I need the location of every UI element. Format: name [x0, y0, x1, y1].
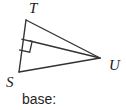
cevian-altitude-U-to-ST — [30, 41, 100, 58]
base-prompt-label: base: — [22, 92, 56, 107]
triangle-side-TU — [26, 20, 100, 58]
triangle-side-ST — [19, 20, 26, 72]
vertex-label-S: S — [6, 75, 14, 90]
vertex-label-U: U — [109, 58, 120, 73]
geometry-problem-figure: T S U base: — [0, 0, 126, 110]
triangle-diagram-canvas — [0, 0, 126, 110]
triangle-side-SU — [19, 58, 100, 72]
vertex-label-T: T — [29, 1, 37, 16]
right-angle-marker-icon — [19, 39, 32, 52]
